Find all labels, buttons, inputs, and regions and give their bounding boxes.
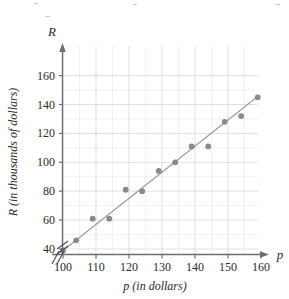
x-tick-label: 110 xyxy=(87,260,105,274)
y-tick-label: 140 xyxy=(37,98,55,112)
y-axis-title: R (in thousands of dollars) xyxy=(6,88,20,218)
y-tick-label: 120 xyxy=(37,126,55,140)
x-tick-label: 120 xyxy=(120,260,138,274)
x-tick-label: 130 xyxy=(153,260,171,274)
y-tick-label: 100 xyxy=(37,155,55,169)
data-point xyxy=(156,168,162,174)
scatter-plot-figure: 406080100120140160 100110120130140150160… xyxy=(0,0,289,299)
data-point xyxy=(90,216,96,222)
data-point xyxy=(123,187,129,193)
x-tick-label: 140 xyxy=(186,260,204,274)
data-point xyxy=(255,94,261,100)
x-tick-label: 150 xyxy=(219,260,237,274)
y-axis-symbol: R xyxy=(47,24,56,39)
data-point xyxy=(73,237,79,243)
y-tick-label: 80 xyxy=(43,184,55,198)
data-point xyxy=(139,188,145,194)
x-tick-label: 160 xyxy=(252,260,270,274)
data-point xyxy=(189,144,195,150)
x-axis-symbol: p xyxy=(276,247,284,262)
data-point xyxy=(172,159,178,165)
data-point xyxy=(222,119,228,125)
data-point xyxy=(238,113,244,119)
data-point xyxy=(106,216,112,222)
y-tick-label: 60 xyxy=(43,213,55,227)
x-axis-title: p (in dollars) xyxy=(122,279,186,293)
y-tick-label: 160 xyxy=(37,69,55,83)
data-point xyxy=(205,144,211,150)
x-tick-label: 100 xyxy=(54,260,72,274)
y-tick-label: 40 xyxy=(43,242,55,256)
